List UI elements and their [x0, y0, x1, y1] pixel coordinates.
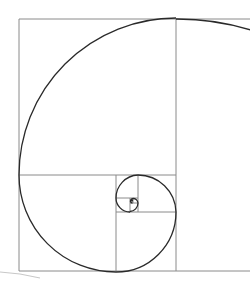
paper-edge-shadow: [0, 272, 40, 278]
golden-spiral-diagram: [0, 0, 250, 286]
spiral-arc-4: [116, 212, 176, 272]
spiral-arc-8: [130, 203, 138, 212]
spiral-arc-2: [19, 18, 176, 175]
spiral-arc-5: [138, 175, 176, 212]
spiral-arc-3: [19, 175, 116, 272]
spiral-curve: [19, 18, 250, 272]
spiral-core: [131, 200, 133, 202]
spiral-arc-6: [116, 175, 138, 198]
spiral-arc-1: [176, 19, 250, 33]
grid-rectangles: [19, 19, 250, 271]
spiral-arc-9: [133, 198, 138, 203]
outer-frame: [19, 19, 250, 271]
spiral-arc-7: [116, 198, 130, 212]
